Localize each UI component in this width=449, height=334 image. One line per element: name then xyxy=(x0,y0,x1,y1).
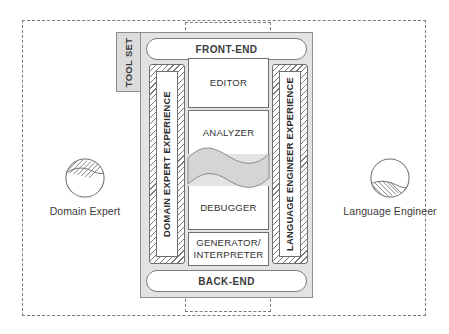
tool-set-label: TOOL SET xyxy=(123,37,134,87)
editor-box: EDITOR xyxy=(188,58,269,108)
language-engineer-actor: Language Engineer xyxy=(340,157,440,217)
editor-label: EDITOR xyxy=(210,77,247,89)
back-end-bar: BACK-END xyxy=(146,270,307,292)
tool-set-tab: TOOL SET xyxy=(116,32,141,92)
language-engineer-head-icon xyxy=(369,157,411,199)
language-engineer-label: Language Engineer xyxy=(343,205,436,217)
generator-interpreter-box: GENERATOR/ INTERPRETER xyxy=(188,232,269,266)
domain-expert-label: Domain Expert xyxy=(50,205,121,217)
domain-expert-head-icon xyxy=(64,157,106,199)
domain-expert-experience-panel: DOMAIN EXPERT EXPERIENCE xyxy=(149,64,185,264)
analyzer-label: ANALYZER xyxy=(203,127,255,139)
generator-label-line1: GENERATOR/ xyxy=(196,237,261,249)
analyzer-box: ANALYZER xyxy=(188,110,269,154)
domain-expert-experience-label: DOMAIN EXPERT EXPERIENCE xyxy=(162,91,172,237)
domain-expert-hatch-group xyxy=(66,159,104,178)
front-end-bar: FRONT-END xyxy=(146,38,307,60)
back-end-label: BACK-END xyxy=(198,276,255,287)
domain-expert-actor: Domain Expert xyxy=(43,157,127,217)
front-end-label: FRONT-END xyxy=(196,44,258,55)
language-engineer-experience-panel: LANGUAGE ENGINEER EXPERIENCE xyxy=(272,64,308,264)
debugger-box: DEBUGGER xyxy=(188,186,269,230)
diagram-canvas: TOOL SET FRONT-END BACK-END DOMAIN EXPER… xyxy=(0,0,449,334)
generator-label-line2: INTERPRETER xyxy=(194,249,264,261)
language-engineer-experience-inner: LANGUAGE ENGINEER EXPERIENCE xyxy=(279,71,301,257)
language-engineer-hatch-group xyxy=(371,181,409,197)
language-engineer-experience-label: LANGUAGE ENGINEER EXPERIENCE xyxy=(285,77,295,251)
component-stack: EDITOR ANALYZER DEBUGGER GENERATOR/ INTE… xyxy=(188,58,269,266)
domain-expert-experience-inner: DOMAIN EXPERT EXPERIENCE xyxy=(156,71,178,257)
debugger-label: DEBUGGER xyxy=(200,202,257,214)
